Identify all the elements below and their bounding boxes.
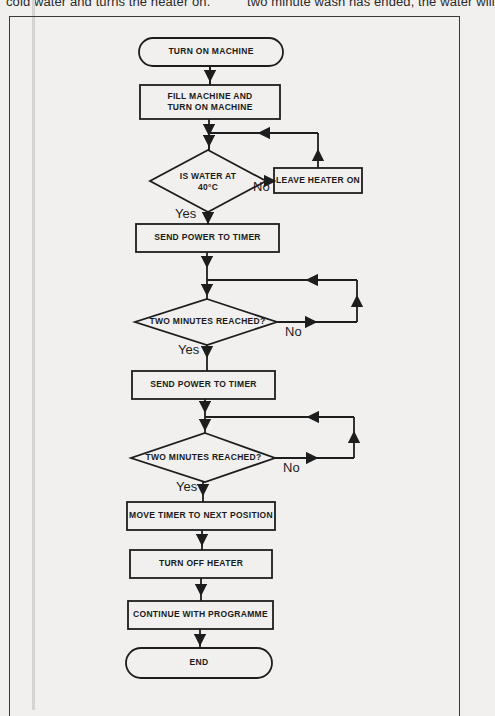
no-label-time-2: No: [283, 460, 300, 475]
start-label: TURN ON MACHINE: [139, 38, 283, 66]
two-minutes-label-2: TWO MINUTES REACHED?: [141, 446, 266, 470]
continue-programme-label: CONTINUE WITH PROGRAMME: [128, 601, 273, 629]
leave-heater-on-label: LEAVE HEATER ON: [274, 168, 362, 193]
yes-label-temp: Yes: [175, 206, 196, 221]
temperature-decision-label: IS WATER AT 40°C: [178, 160, 238, 204]
send-power-label-1: SEND POWER TO TIMER: [136, 224, 279, 252]
no-label-temp: No: [253, 179, 270, 194]
fill-machine-label: FILL MACHINE AND TURN ON MACHINE: [160, 85, 260, 119]
move-timer-label: MOVE TIMER TO NEXT POSITION: [127, 502, 275, 530]
send-power-label-2: SEND POWER TO TIMER: [132, 371, 275, 399]
two-minutes-label-1: TWO MINUTES REACHED?: [145, 310, 270, 334]
yes-label-time-1: Yes: [178, 342, 199, 357]
turn-off-heater-label: TURN OFF HEATER: [130, 550, 272, 578]
yes-label-time-2: Yes: [176, 479, 197, 494]
end-label: END: [126, 648, 272, 678]
no-label-time-1: No: [285, 324, 302, 339]
